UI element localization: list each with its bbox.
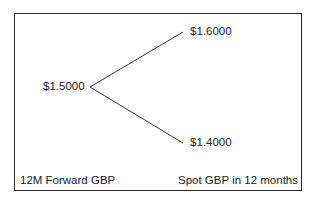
origin-value: $1.5000	[43, 81, 85, 93]
branch-down-line	[90, 87, 183, 143]
up-outcome-value: $1.6000	[190, 26, 232, 38]
caption-right: Spot GBP in 12 months	[178, 175, 298, 187]
down-outcome-value: $1.4000	[190, 137, 232, 149]
caption-left: 12M Forward GBP	[20, 175, 115, 187]
branch-up-line	[90, 32, 183, 87]
